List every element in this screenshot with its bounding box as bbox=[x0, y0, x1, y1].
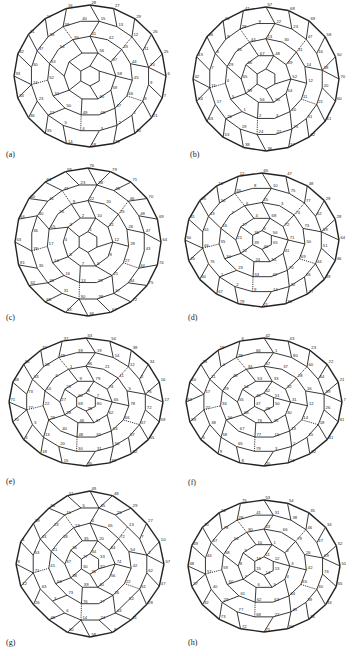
vertex-label: 23 bbox=[238, 265, 243, 270]
vertex-label: 39 bbox=[33, 246, 38, 251]
vertex-label: 11 bbox=[144, 46, 149, 51]
panel-e: 5354383416175955523335151847071685132371… bbox=[2, 324, 177, 486]
vertex-label: 35 bbox=[88, 461, 93, 466]
vertex-label: 70 bbox=[204, 522, 209, 527]
vertex-label: 63 bbox=[42, 584, 47, 589]
vertex-label: 24 bbox=[255, 257, 260, 262]
vertex-label: 7 bbox=[344, 397, 347, 402]
vertex-label: 7 bbox=[82, 261, 85, 266]
vertex-label: 46 bbox=[256, 393, 261, 398]
vertex-label: 16 bbox=[318, 49, 323, 54]
vertex-label: 38 bbox=[72, 573, 77, 578]
vertex-label: 29 bbox=[136, 14, 141, 19]
vertex-label: 41 bbox=[245, 6, 250, 11]
vertex-label: 15 bbox=[64, 458, 69, 463]
vertex-label: 15 bbox=[51, 224, 56, 229]
vertex-label: 21 bbox=[53, 547, 58, 552]
vertex-label: 52 bbox=[129, 596, 134, 601]
vertex-label: 34 bbox=[327, 522, 332, 527]
vertex-label: 21 bbox=[237, 235, 242, 240]
vertex-label: 50 bbox=[306, 239, 311, 244]
vertex-label: 59 bbox=[247, 88, 252, 93]
vertex-label: 36 bbox=[310, 614, 315, 619]
vertex-label: 12 bbox=[275, 556, 280, 561]
vertex-label: 55 bbox=[74, 35, 79, 40]
vertex-label: 58 bbox=[222, 432, 227, 437]
vertex-label: 25 bbox=[120, 209, 125, 214]
vertex-label: 38 bbox=[292, 515, 297, 520]
vertex-label: 66 bbox=[125, 415, 130, 420]
vertex-label: 37 bbox=[64, 336, 69, 341]
fullerene-cage-drawing: 5354353452515533365071727332374849707475… bbox=[178, 486, 353, 648]
vertex-label: 21 bbox=[105, 364, 110, 369]
vertex-label: 46 bbox=[50, 615, 55, 620]
vertex-label: 16 bbox=[222, 223, 227, 228]
vertex-label: 36 bbox=[268, 146, 273, 151]
vertex-label: 58 bbox=[225, 550, 230, 555]
vertex-label: 45 bbox=[237, 47, 242, 52]
vertex-label: 50 bbox=[289, 624, 294, 629]
vertex-label: 7 bbox=[141, 534, 144, 539]
vertex-label: 58 bbox=[98, 180, 103, 185]
vertex-label: 55 bbox=[150, 435, 155, 440]
vertex-label: 65 bbox=[114, 397, 119, 402]
vertex-label: 26 bbox=[128, 224, 133, 229]
vertex-label: 35 bbox=[221, 239, 226, 244]
vertex-label: 55 bbox=[275, 97, 280, 102]
vertex-label: 67 bbox=[213, 538, 218, 543]
vertex-label: 39 bbox=[254, 240, 259, 245]
vertex-label: 62 bbox=[317, 211, 322, 216]
vertex-label: 76 bbox=[147, 389, 152, 394]
vertex-label: 52 bbox=[266, 388, 271, 393]
vertex-label: 4 bbox=[286, 574, 289, 579]
vertex-label: 76 bbox=[257, 418, 262, 423]
fullerene-cage-drawing: 4948292710574728119585046261281596051452… bbox=[2, 486, 177, 648]
vertex-label: 63 bbox=[208, 116, 213, 121]
vertex-label: 79 bbox=[112, 167, 117, 172]
vertex-label: 71 bbox=[290, 235, 295, 240]
vertex-label: 41 bbox=[92, 31, 97, 36]
vertex-label: 9 bbox=[254, 287, 257, 292]
vertex-label: 44 bbox=[317, 259, 322, 264]
vertex-label: 81 bbox=[20, 260, 25, 265]
vertex-label: 22 bbox=[45, 401, 50, 406]
fullerene-cage-drawing: 7679717069647475726766536562816356606159… bbox=[2, 162, 177, 324]
panel-f: 4243232221761416224208955963402519618060… bbox=[178, 324, 353, 486]
vertex-label: 10 bbox=[273, 183, 278, 188]
vertex-label: 24 bbox=[290, 458, 295, 463]
vertex-label: 26 bbox=[306, 550, 311, 555]
vertex-label: 64 bbox=[341, 235, 346, 240]
vertex-label: 28 bbox=[239, 515, 244, 520]
vertex-label: 55 bbox=[239, 397, 244, 402]
vertex-label: 21 bbox=[318, 99, 323, 104]
vertex-label: 52 bbox=[221, 198, 226, 203]
vertex-label: 80 bbox=[97, 401, 102, 406]
vertex-label: 59 bbox=[35, 518, 40, 523]
vertex-label: 60 bbox=[99, 94, 104, 99]
vertex-label: 14 bbox=[115, 353, 120, 358]
vertex-label: 16 bbox=[256, 556, 261, 561]
vertex-label: 17 bbox=[217, 99, 222, 104]
vertex-label: 4 bbox=[227, 78, 230, 83]
fullerene-cage-drawing: 5354383416175955523335151847071685132371… bbox=[2, 324, 177, 486]
vertex-label: 12 bbox=[22, 581, 27, 586]
vertex-label: 30 bbox=[81, 294, 86, 299]
vertex-label: 50 bbox=[187, 235, 192, 240]
vertex-label: 8 bbox=[240, 561, 243, 566]
vertex-label: 48 bbox=[114, 491, 119, 496]
vertex-label: 76 bbox=[210, 259, 215, 264]
vertex-label: 24 bbox=[259, 129, 264, 134]
fullerene-cage-drawing: 4243232221761416224208955963402519618060… bbox=[178, 324, 353, 486]
vertex-label: 23 bbox=[66, 384, 71, 389]
vertex-label: 17 bbox=[49, 241, 54, 246]
vertex-label: 76 bbox=[90, 163, 95, 168]
vertex-label: 47 bbox=[318, 538, 323, 543]
vertex-label: 68 bbox=[14, 377, 19, 382]
vertex-label: 53 bbox=[67, 307, 72, 312]
vertex-label: 51 bbox=[275, 393, 280, 398]
vertex-label: 13 bbox=[291, 426, 296, 431]
vertex-label: 37 bbox=[66, 559, 71, 564]
vertex-label: 64 bbox=[198, 96, 203, 101]
vertex-label: 12 bbox=[240, 171, 245, 176]
vertex-label: 11 bbox=[120, 373, 125, 378]
